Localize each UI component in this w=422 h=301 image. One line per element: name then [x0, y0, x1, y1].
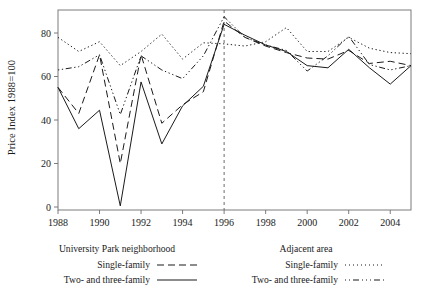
legend-group-university-park: University Park neighborhood Single-fami…: [36, 243, 198, 301]
y-tick-label: 60: [41, 71, 51, 82]
x-tick-label: 2000: [297, 217, 317, 228]
y-tick-label: 0: [46, 202, 51, 213]
price-index-line-chart: Price Index 1988=100 020406080 198819901…: [0, 0, 422, 301]
legend-label-aa-single-family: Single-family: [285, 259, 338, 270]
x-tick-label: 1996: [214, 217, 234, 228]
legend-item-up-single-family: Single-family: [36, 257, 198, 272]
legend-group-adjacent-area: Adjacent area Single-family Two- and thr…: [226, 243, 386, 301]
x-tick-label: 1998: [256, 217, 276, 228]
legend-heading-university-park: University Park neighborhood: [36, 243, 198, 254]
y-tick-label: 80: [41, 28, 51, 39]
legend-item-up-two-three-family: Two- and three-family: [36, 272, 198, 287]
x-tick-label: 1992: [131, 217, 151, 228]
solid-line-key: [156, 275, 198, 285]
legend-label-up-single-family: Single-family: [97, 259, 150, 270]
dashed-line-key: [156, 260, 198, 270]
legend: University Park neighborhood Single-fami…: [0, 243, 422, 301]
legend-label-aa-two-three-family: Two- and three-family: [252, 274, 338, 285]
dotted-line-key: [344, 260, 386, 270]
plot-frame: [58, 10, 411, 210]
legend-item-aa-two-three-family: Two- and three-family: [226, 272, 386, 287]
legend-heading-adjacent-area: Adjacent area: [226, 243, 386, 254]
x-tick-label: 1988: [48, 217, 68, 228]
y-tick-label: 20: [41, 158, 51, 169]
x-tick-label: 2004: [380, 217, 400, 228]
y-tick-label: 40: [41, 115, 51, 126]
x-tick-label: 2002: [339, 217, 359, 228]
x-axis-ticks: 198819901992199419961998200020022004: [48, 210, 400, 228]
legend-item-aa-single-family: Single-family: [226, 257, 386, 272]
legend-label-up-two-three-family: Two- and three-family: [64, 274, 150, 285]
y-axis-ticks: 020406080: [41, 28, 58, 213]
dash-dot-line-key: [344, 275, 386, 285]
x-tick-label: 1994: [173, 217, 193, 228]
plot-area: 020406080 198819901992199419961998200020…: [0, 0, 422, 245]
x-tick-label: 1990: [90, 217, 110, 228]
